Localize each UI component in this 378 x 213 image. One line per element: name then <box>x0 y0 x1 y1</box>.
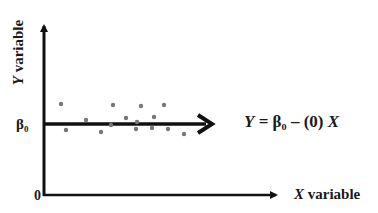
y-label-text: variable <box>10 20 26 76</box>
x-axis-label: X variable <box>294 186 360 203</box>
beta0-tick-label: β₀ <box>16 116 28 133</box>
eq-rhs: = β₀ – (0) <box>254 112 327 131</box>
data-points <box>59 102 186 136</box>
x-label-text: variable <box>304 186 360 202</box>
y-var: Y <box>10 76 26 85</box>
eq-var: X <box>328 112 339 131</box>
regression-equation: Y = β₀ – (0) X <box>244 112 339 132</box>
y-axis-label: Y variable <box>10 13 27 93</box>
diagram-canvas <box>0 0 378 213</box>
eq-lhs: Y <box>244 112 254 131</box>
origin-label: 0 <box>34 188 41 204</box>
x-var: X <box>294 186 304 202</box>
